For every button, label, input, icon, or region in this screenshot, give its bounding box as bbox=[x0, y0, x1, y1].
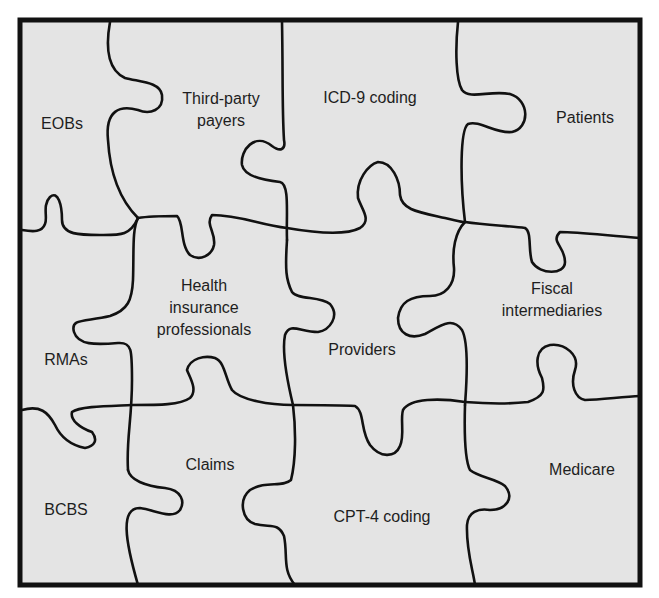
piece-label-fiscal-intermediaries: Fiscal intermediaries bbox=[502, 278, 602, 322]
piece-label-providers: Providers bbox=[328, 339, 396, 361]
piece-label-eobs: EOBs bbox=[41, 113, 83, 135]
piece-label-icd9-coding: ICD-9 coding bbox=[323, 87, 416, 109]
piece-label-cpt4-coding: CPT-4 coding bbox=[334, 506, 431, 528]
puzzle-diagram: EOBs Third-party payers ICD-9 coding Pat… bbox=[0, 0, 659, 598]
piece-label-bcbs: BCBS bbox=[44, 499, 88, 521]
piece-label-medicare: Medicare bbox=[549, 459, 615, 481]
third-party-payers-line-1: Third-party bbox=[182, 88, 259, 110]
fiscal-intermediaries-line-1: Fiscal bbox=[502, 278, 602, 300]
piece-label-third-party-payers: Third-party payers bbox=[182, 88, 259, 132]
health-insurance-line-1: Health bbox=[157, 275, 251, 297]
piece-label-patients: Patients bbox=[556, 107, 614, 129]
fiscal-intermediaries-line-2: intermediaries bbox=[502, 300, 602, 322]
health-insurance-line-2: insurance bbox=[157, 297, 251, 319]
piece-label-claims: Claims bbox=[186, 454, 235, 476]
health-insurance-line-3: professionals bbox=[157, 319, 251, 341]
third-party-payers-line-2: payers bbox=[182, 110, 259, 132]
piece-label-health-insurance-professionals: Health insurance professionals bbox=[157, 275, 251, 341]
piece-label-rmas: RMAs bbox=[44, 349, 88, 371]
